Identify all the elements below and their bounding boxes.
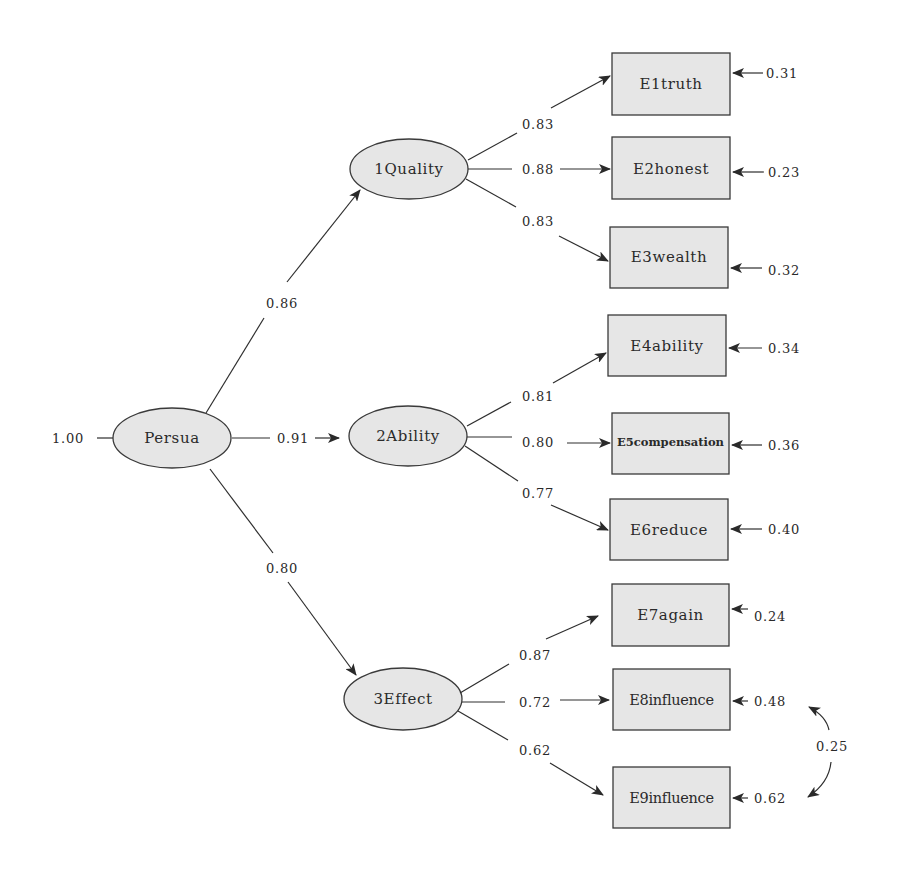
path-persua-ability: 0.91	[232, 431, 339, 446]
indicator-label-e4: E4ability	[630, 337, 703, 355]
indicator-box-e2[interactable]: E2honest	[612, 137, 730, 199]
path-ability-e4: 0.81	[467, 353, 606, 426]
path-ability-e6: 0.77	[465, 446, 608, 530]
error-e2: 0.23	[733, 165, 800, 180]
latent-node-persua[interactable]: Persua	[113, 408, 231, 468]
covariance-value-e8-e9: 0.25	[816, 739, 848, 754]
error-e5: 0.36	[732, 438, 800, 453]
path-quality-e2: 0.88	[468, 162, 610, 177]
loading-e4: 0.81	[522, 389, 554, 404]
indicator-box-e1[interactable]: E1truth	[612, 53, 730, 115]
indicator-label-e6: E6reduce	[630, 521, 708, 539]
latent-node-effect[interactable]: 3Effect	[344, 668, 462, 730]
latent-label-quality: 1Quality	[374, 160, 443, 178]
indicator-label-e3: E3wealth	[631, 248, 707, 266]
latent-node-ability[interactable]: 2Ability	[349, 406, 467, 466]
indicator-label-e7: E7again	[637, 606, 704, 624]
loading-e2: 0.88	[522, 162, 554, 177]
sem-path-diagram: 1.00 Persua 0.86 0.91 0.80 1Quality 2Abi…	[0, 0, 900, 877]
error-e6: 0.40	[731, 522, 800, 537]
error-covariance-e8-e9: 0.25	[808, 707, 848, 797]
error-e3: 0.32	[731, 263, 800, 278]
loading-e3: 0.83	[522, 214, 554, 229]
loading-e9: 0.62	[519, 743, 551, 758]
loading-e7: 0.87	[519, 648, 551, 663]
error-e7: 0.24	[732, 609, 786, 624]
indicator-label-e9: E9influence	[629, 790, 713, 806]
persua-variance: 1.00	[52, 431, 113, 446]
path-quality-e1: 0.83	[468, 76, 610, 160]
error-value-e1: 0.31	[766, 66, 798, 81]
error-value-e2: 0.23	[768, 165, 800, 180]
path-persua-quality: 0.86	[206, 190, 360, 413]
error-e8: 0.48	[733, 694, 786, 709]
loading-e6: 0.77	[522, 486, 554, 501]
indicator-box-e4[interactable]: E4ability	[608, 315, 726, 376]
persua-variance-value: 1.00	[52, 431, 84, 446]
error-value-e7: 0.24	[754, 609, 786, 624]
latent-label-effect: 3Effect	[373, 690, 432, 708]
indicator-box-e6[interactable]: E6reduce	[610, 499, 728, 560]
indicator-label-e5: E5compensation	[617, 435, 725, 449]
loading-persua-ability: 0.91	[277, 431, 309, 446]
loading-e8: 0.72	[519, 695, 551, 710]
indicator-label-e8: E8influence	[629, 692, 713, 708]
indicator-box-e9[interactable]: E9influence	[613, 767, 730, 828]
indicator-box-e8[interactable]: E8influence	[613, 669, 730, 730]
error-e9: 0.62	[733, 791, 786, 806]
error-value-e4: 0.34	[768, 341, 800, 356]
error-value-e9: 0.62	[754, 791, 786, 806]
error-value-e3: 0.32	[768, 263, 800, 278]
latent-label-persua: Persua	[144, 429, 199, 447]
error-value-e5: 0.36	[768, 438, 800, 453]
path-persua-effect: 0.80	[210, 469, 356, 675]
latent-label-ability: 2Ability	[376, 427, 440, 445]
path-quality-e3: 0.83	[466, 179, 608, 261]
error-value-e6: 0.40	[768, 522, 800, 537]
path-effect-e7: 0.87	[460, 616, 598, 693]
indicator-box-e7[interactable]: E7again	[612, 584, 729, 646]
indicator-box-e5[interactable]: E5compensation	[612, 413, 729, 474]
indicator-label-e1: E1truth	[639, 75, 702, 93]
error-e1: 0.31	[733, 66, 798, 81]
loading-persua-quality: 0.86	[266, 296, 298, 311]
path-ability-e5: 0.80	[467, 435, 610, 450]
path-effect-e9: 0.62	[458, 711, 603, 795]
path-effect-e8: 0.72	[462, 695, 609, 710]
indicator-label-e2: E2honest	[633, 160, 709, 178]
error-e4: 0.34	[729, 341, 800, 356]
loading-e1: 0.83	[522, 117, 554, 132]
error-value-e8: 0.48	[754, 694, 786, 709]
loading-e5: 0.80	[522, 435, 554, 450]
loading-persua-effect: 0.80	[266, 561, 298, 576]
latent-node-quality[interactable]: 1Quality	[350, 139, 468, 199]
indicator-box-e3[interactable]: E3wealth	[610, 227, 728, 288]
